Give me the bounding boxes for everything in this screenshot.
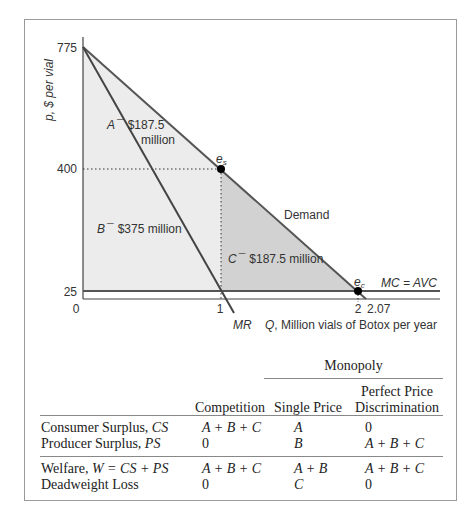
x-tick-2: 2 (355, 302, 362, 316)
x-tick-2-07: 2.07 (367, 302, 391, 316)
x-axis-label: Q, Million vials of Botox per year (265, 318, 437, 332)
mc-avc-label: MC = AVC (381, 276, 437, 290)
y-tick-400: 400 (57, 162, 77, 176)
region-a-label-2: million (141, 133, 175, 147)
e-s-label: es (216, 152, 227, 167)
demand-label: Demand (284, 208, 329, 222)
x-tick-0: 0 (73, 302, 80, 316)
surplus-chart: p, $ per vial 775 400 25 0 1 2 2.07 Q, M… (0, 0, 473, 523)
region-a-label: A¯$187.5 (106, 118, 165, 132)
mr-label: MR (233, 318, 252, 332)
region-b-label: B¯$375 million (97, 222, 182, 236)
y-tick-775: 775 (57, 41, 77, 55)
y-axis-label: p, $ per vial (42, 59, 56, 122)
x-tick-1: 1 (217, 302, 224, 316)
region-c-label: C¯$187.5 million (228, 252, 323, 266)
y-tick-25: 25 (64, 285, 78, 299)
e-c-label: ec (354, 275, 365, 290)
